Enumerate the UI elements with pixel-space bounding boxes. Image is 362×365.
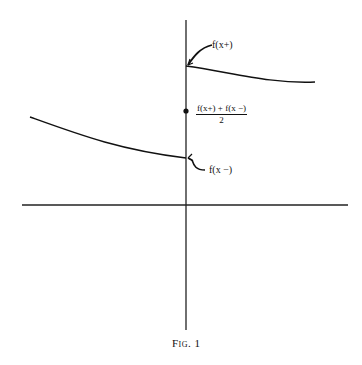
midpoint-dot	[183, 108, 188, 113]
label-midpoint-fraction: f(x+) + f(x −) 2	[196, 103, 247, 125]
label-right-limit: f(x+)	[212, 39, 233, 50]
arrowhead-left-limit-icon	[188, 154, 193, 161]
left-branch-curve	[30, 117, 186, 158]
label-left-limit: f(x −)	[209, 164, 232, 175]
fraction-denominator: 2	[196, 115, 247, 125]
fraction-numerator: f(x+) + f(x −)	[196, 103, 247, 115]
figure-caption: Fig. 1	[172, 337, 201, 349]
arrow-right-limit	[188, 45, 212, 65]
figure-canvas	[0, 0, 362, 365]
right-branch-curve	[186, 66, 315, 82]
